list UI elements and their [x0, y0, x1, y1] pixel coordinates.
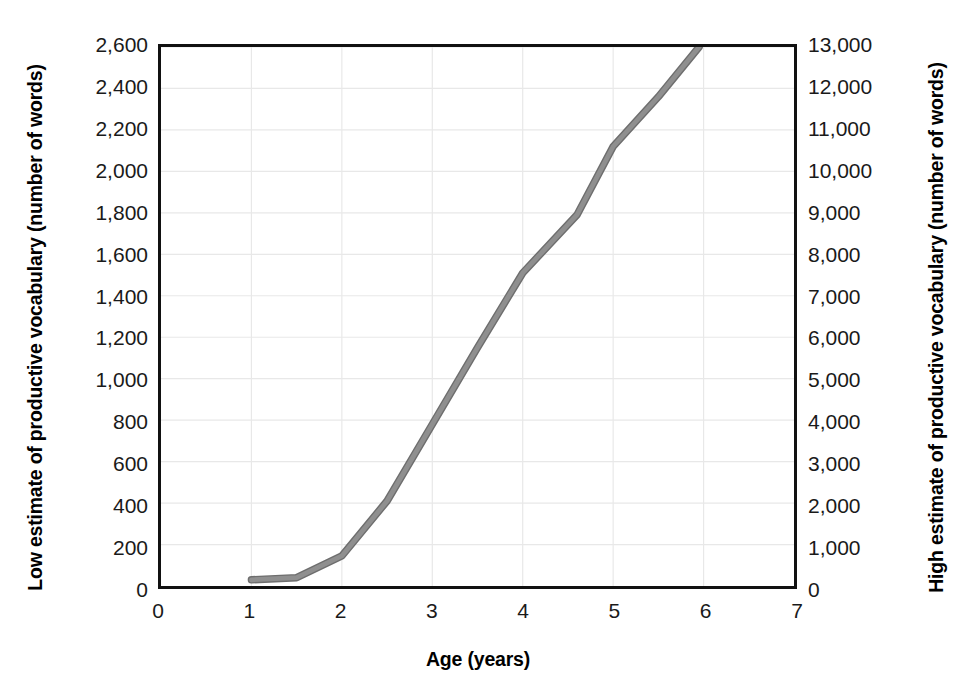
y-axis-left-tick: 800 [113, 411, 148, 432]
y-axis-right-tick-labels: 01,0002,0003,0004,0005,0006,0007,0008,00… [808, 44, 918, 589]
data-line [251, 47, 699, 580]
y-axis-right-tick: 0 [808, 579, 820, 600]
y-axis-right-tick: 2,000 [808, 495, 861, 516]
plot-area [158, 44, 797, 589]
vocabulary-growth-chart: Low estimate of productive vocabulary (n… [0, 0, 966, 693]
x-axis-tick: 1 [243, 600, 255, 621]
x-axis-tick: 6 [700, 600, 712, 621]
x-axis-tick: 2 [335, 600, 347, 621]
y-axis-left-tick: 200 [113, 537, 148, 558]
y-axis-right-tick: 13,000 [808, 34, 872, 55]
y-axis-left-tick-labels: 02004006008001,0001,2001,4001,6001,8002,… [48, 44, 148, 589]
y-axis-right-tick: 4,000 [808, 411, 861, 432]
y-axis-right-tick: 12,000 [808, 75, 872, 96]
x-axis-tick: 4 [517, 600, 529, 621]
y-axis-right-tick: 7,000 [808, 285, 861, 306]
y-axis-right-tick: 3,000 [808, 453, 861, 474]
y-axis-left-tick: 1,000 [95, 369, 148, 390]
y-axis-left-tick: 2,400 [95, 75, 148, 96]
y-axis-left-tick: 600 [113, 453, 148, 474]
y-axis-right-tick: 10,000 [808, 159, 872, 180]
y-axis-left-tick: 2,200 [95, 117, 148, 138]
x-axis-tick: 7 [791, 600, 803, 621]
y-axis-right-title: High estimate of productive vocabulary (… [925, 28, 948, 628]
y-axis-right-tick: 8,000 [808, 243, 861, 264]
data-line-series [161, 47, 794, 586]
x-axis-tick: 0 [152, 600, 164, 621]
y-axis-left-tick: 1,800 [95, 201, 148, 222]
y-axis-right-tick: 5,000 [808, 369, 861, 390]
y-axis-right-tick: 9,000 [808, 201, 861, 222]
y-axis-left-tick: 1,400 [95, 285, 148, 306]
y-axis-left-tick: 2,000 [95, 159, 148, 180]
y-axis-left-tick: 1,200 [95, 327, 148, 348]
y-axis-left-tick: 1,600 [95, 243, 148, 264]
x-axis-title: Age (years) [158, 648, 798, 671]
x-axis-tick: 3 [426, 600, 438, 621]
y-axis-right-tick: 11,000 [808, 117, 871, 138]
x-axis-tick: 5 [609, 600, 621, 621]
y-axis-left-tick: 2,600 [95, 34, 148, 55]
y-axis-left-tick: 400 [113, 495, 148, 516]
y-axis-right-tick: 6,000 [808, 327, 861, 348]
x-axis-tick-labels: 01234567 [158, 600, 797, 630]
y-axis-left-title: Low estimate of productive vocabulary (n… [24, 28, 47, 628]
y-axis-left-tick: 0 [136, 579, 148, 600]
y-axis-right-tick: 1,000 [808, 537, 861, 558]
